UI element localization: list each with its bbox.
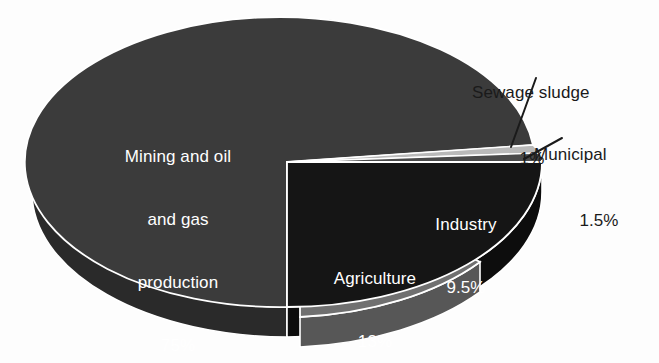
mining-label-line3: production (78, 272, 278, 293)
municipal-label: Municipal 1.5% (534, 100, 659, 276)
mining-label-line2: and gas (78, 209, 278, 230)
mining-label-percent: 75% (78, 335, 278, 356)
pie-chart: Mining and oil and gas production 75% In… (0, 0, 659, 363)
mining-slice-label: Mining and oil and gas production 75% (78, 104, 278, 363)
agriculture-slice-label: Agriculture 13% (295, 226, 455, 363)
agriculture-label-name: Agriculture (295, 268, 455, 289)
agriculture-label-percent: 13% (295, 331, 455, 352)
mining-label-line1: Mining and oil (78, 146, 278, 167)
municipal-label-name: Municipal (534, 144, 659, 166)
municipal-label-percent: 1.5% (534, 210, 658, 232)
